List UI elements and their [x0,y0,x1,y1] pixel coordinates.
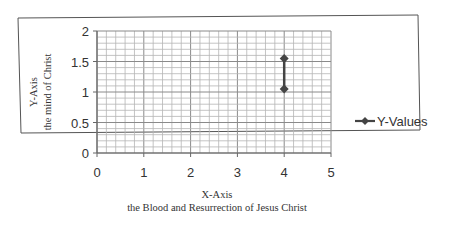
x-tick-label: 0 [93,165,100,180]
plot-axes [93,31,331,157]
y-axis-subtitle: the mind of Christ [42,54,53,131]
x-axis-subtitle: the Blood and Resurrection of Jesus Chri… [127,202,307,213]
y-tick-label: 1 [82,85,89,100]
y-tick-label: 2 [82,24,89,39]
x-tick-labels: 012345 [93,165,334,180]
legend-diamond-marker-icon [361,117,369,125]
chart-canvas: 00.511.52 012345 Y-Axis the mind of Chri… [0,0,460,249]
y-tick-labels: 00.511.52 [71,24,89,161]
x-tick-label: 3 [234,165,241,180]
x-tick-label: 2 [187,165,194,180]
y-tick-label: 0 [82,146,89,161]
x-tick-label: 1 [140,165,147,180]
legend: Y-Values [355,114,428,129]
plot-grid [97,31,331,153]
x-axis-title: X-Axis [202,189,233,200]
y-axis-title: Y-Axis [28,77,39,107]
x-tick-label: 4 [281,165,288,180]
legend-label: Y-Values [377,114,428,129]
x-tick-label: 5 [327,165,334,180]
y-tick-label: 0.5 [71,116,89,131]
y-tick-label: 1.5 [71,55,89,70]
